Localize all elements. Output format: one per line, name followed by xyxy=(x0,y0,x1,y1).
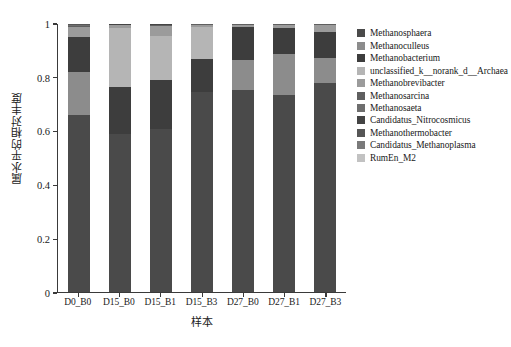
bar-segment xyxy=(232,90,254,292)
legend-label: unclassified_k__norank_d__Archaea xyxy=(370,66,508,76)
bar-segment xyxy=(314,32,336,57)
y-tick-label: 1 xyxy=(45,19,53,30)
legend-item[interactable]: Methanobrevibacter xyxy=(357,77,509,89)
bar-segment xyxy=(150,26,172,36)
bar-segment xyxy=(68,27,90,37)
legend-swatch-icon xyxy=(357,92,365,100)
x-axis-title: 样本 xyxy=(57,313,346,329)
y-tick-label: 0 xyxy=(45,288,53,299)
x-axis-labels: D0_B0D15_B0D15_B1D15_B3D27_B0D27_B1D27_B… xyxy=(57,297,346,307)
legend-swatch-icon xyxy=(357,67,365,75)
legend-item[interactable]: Methanoculleus xyxy=(357,39,509,51)
y-tick-label: 0.4 xyxy=(37,181,53,192)
x-tick-label: D27_B0 xyxy=(222,297,263,307)
legend-swatch-icon xyxy=(357,104,365,112)
bar-column[interactable] xyxy=(314,24,336,292)
bar-segment xyxy=(68,115,90,292)
x-tick-label: D15_B0 xyxy=(98,297,139,307)
legend-swatch-icon xyxy=(357,29,365,37)
bar-segment xyxy=(150,36,172,80)
legend-label: Methanosphaera xyxy=(370,28,431,38)
bar-segment xyxy=(109,28,131,87)
bar-column[interactable] xyxy=(191,24,213,292)
legend-swatch-icon xyxy=(357,79,365,87)
bar-column[interactable] xyxy=(232,24,254,292)
bar-segment xyxy=(191,92,213,292)
bar-column[interactable] xyxy=(273,24,295,292)
bars-layer xyxy=(58,24,346,292)
legend-item[interactable]: Methanosarcina xyxy=(357,89,509,101)
legend-swatch-icon xyxy=(357,54,365,62)
stacked-bar-chart: 10.80.60.40.20 属水平的相对丰度 D0_B0D15_B0D15_B… xyxy=(0,0,511,347)
legend-swatch-icon xyxy=(357,154,365,162)
bar-segment xyxy=(314,83,336,292)
legend-item[interactable]: Candidatus_Nitrocosmicus xyxy=(357,114,509,126)
legend-swatch-icon xyxy=(357,42,365,50)
bar-segment xyxy=(109,87,131,134)
bar-segment xyxy=(273,54,295,96)
legend-swatch-icon xyxy=(357,141,365,149)
legend-item[interactable]: Candidatus_Methanoplasma xyxy=(357,139,509,151)
legend-label: Candidatus_Methanoplasma xyxy=(370,140,476,150)
legend-item[interactable]: Methanothermobacter xyxy=(357,127,509,139)
legend-label: Methanothermobacter xyxy=(370,128,452,138)
bar-segment xyxy=(191,59,213,93)
bar-segment xyxy=(150,129,172,292)
legend-item[interactable]: RumEn_M2 xyxy=(357,152,509,164)
bar-segment xyxy=(68,37,90,72)
bar-column[interactable] xyxy=(109,24,131,292)
legend-item[interactable]: Methanosaeta xyxy=(357,102,509,114)
legend-item[interactable]: Methanosphaera xyxy=(357,27,509,39)
bar-segment xyxy=(314,58,336,83)
bar-segment xyxy=(191,27,213,59)
bar-segment xyxy=(109,134,131,292)
y-tick-label: 0.2 xyxy=(37,234,53,245)
bar-segment xyxy=(68,72,90,115)
legend-label: Methanoculleus xyxy=(370,41,429,51)
legend-label: Candidatus_Nitrocosmicus xyxy=(370,115,470,125)
x-tick-label: D15_B3 xyxy=(181,297,222,307)
y-axis: 10.80.60.40.20 xyxy=(0,0,57,293)
chart-legend: MethanosphaeraMethanoculleusMethanobacte… xyxy=(357,27,509,164)
bar-segment xyxy=(273,95,295,292)
bar-segment xyxy=(273,28,295,53)
bar-segment xyxy=(150,80,172,128)
bar-segment xyxy=(314,25,336,33)
legend-item[interactable]: unclassified_k__norank_d__Archaea xyxy=(357,64,509,76)
x-tick-label: D27_B1 xyxy=(263,297,304,307)
legend-item[interactable]: Methanobacterium xyxy=(357,52,509,64)
legend-swatch-icon xyxy=(357,129,365,137)
legend-label: Methanobrevibacter xyxy=(370,78,445,88)
legend-label: Methanosaeta xyxy=(370,103,421,113)
x-tick-label: D15_B1 xyxy=(140,297,181,307)
bar-segment xyxy=(232,27,254,61)
y-tick-label: 0.8 xyxy=(37,73,53,84)
y-axis-title: 属水平的相对丰度 xyxy=(10,92,26,184)
legend-swatch-icon xyxy=(357,116,365,124)
legend-label: RumEn_M2 xyxy=(370,153,416,163)
legend-label: Methanosarcina xyxy=(370,91,429,101)
y-tick-label: 0.6 xyxy=(37,127,53,138)
bar-column[interactable] xyxy=(68,24,90,292)
plot-area xyxy=(57,24,346,293)
bar-column[interactable] xyxy=(150,24,172,292)
x-tick-label: D0_B0 xyxy=(57,297,98,307)
x-tick-label: D27_B3 xyxy=(305,297,346,307)
bar-segment xyxy=(232,60,254,89)
legend-label: Methanobacterium xyxy=(370,53,440,63)
